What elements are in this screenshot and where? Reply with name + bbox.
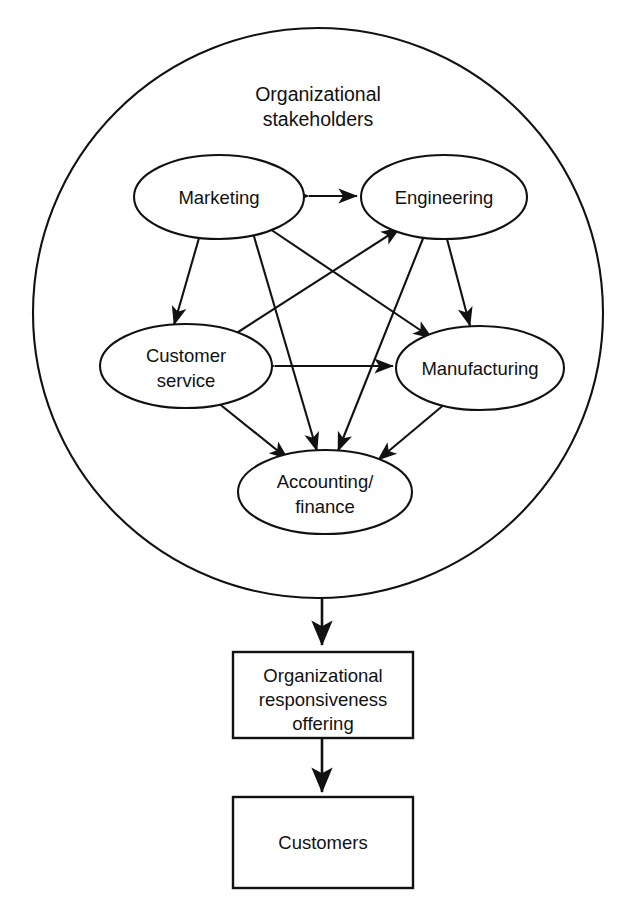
edge-marketing-customer [174, 238, 199, 325]
edge-marketing-manufacturing [270, 229, 432, 338]
edge-manufacturing-accounting [378, 403, 446, 460]
node-marketing-label: Marketing [178, 187, 259, 208]
node-customer-service-label-line1: Customer [146, 345, 226, 366]
node-accounting-finance-label-line1: Accounting/ [277, 471, 375, 492]
node-accounting-finance-label-line2: finance [295, 496, 355, 517]
circle-title-line2: stakeholders [263, 108, 374, 130]
circle-title-line1: Organizational [255, 83, 381, 105]
diagram-canvas: Organizational stakeholders [0, 0, 637, 916]
node-engineering[interactable]: Engineering [361, 155, 527, 239]
node-customer-service-shape [100, 324, 272, 408]
box-organizational-responsiveness-label-line3: offering [292, 713, 353, 734]
edge-customer-accounting [217, 402, 288, 459]
stakeholder-flow-diagram: Organizational stakeholders [0, 0, 637, 916]
node-accounting-finance-shape [238, 450, 412, 534]
node-customer-service-label-line2: service [157, 370, 216, 391]
edge-engineering-manufacturing [447, 239, 470, 326]
node-marketing[interactable]: Marketing [134, 155, 304, 239]
node-manufacturing[interactable]: Manufacturing [396, 326, 564, 410]
box-customers-label: Customers [278, 832, 367, 853]
box-organizational-responsiveness-label-line1: Organizational [263, 665, 382, 686]
edge-marketing-accounting [253, 233, 317, 451]
node-customer-service[interactable]: Customer service [100, 324, 272, 408]
node-accounting-finance[interactable]: Accounting/ finance [238, 450, 412, 534]
box-organizational-responsiveness-label-line2: responsiveness [259, 689, 388, 710]
node-group: Marketing Engineering Customer service M… [100, 155, 564, 534]
node-manufacturing-label: Manufacturing [421, 358, 538, 379]
box-customers[interactable]: Customers [233, 797, 413, 888]
box-organizational-responsiveness[interactable]: Organizational responsiveness offering [233, 652, 413, 738]
node-engineering-label: Engineering [395, 187, 494, 208]
